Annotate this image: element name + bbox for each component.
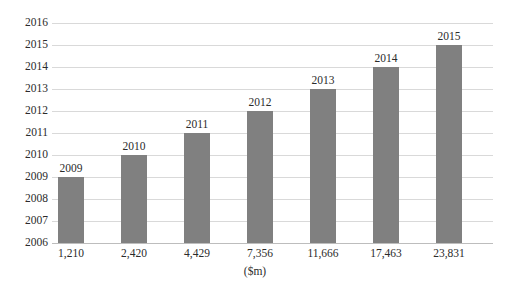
y-axis-tick-2008: 2008 xyxy=(4,193,48,205)
y-axis-tick-2015: 2015 xyxy=(4,39,48,51)
plot-area: 2009 2010 2011 2012 2013 2014 2015 xyxy=(52,23,493,243)
y-axis-tick-2014: 2014 xyxy=(4,61,48,73)
y-axis-tick-2016: 2016 xyxy=(4,17,48,29)
x-axis-title: ($m) xyxy=(0,265,510,277)
bar-2010[interactable] xyxy=(121,155,147,243)
y-axis-tick-2011: 2011 xyxy=(4,127,48,139)
bar-value-label-2010: 2010 xyxy=(104,141,164,153)
bar-value-label-2011: 2011 xyxy=(167,119,227,131)
bar-chart: 2016 2015 2014 2013 2012 2011 2010 2009 … xyxy=(0,0,510,293)
bar-2012[interactable] xyxy=(247,111,273,243)
gridline-2014 xyxy=(52,67,493,68)
x-axis-tick-2: 2,420 xyxy=(99,247,169,259)
bar-2014[interactable] xyxy=(373,67,399,243)
x-axis-tick-1: 1,210 xyxy=(36,247,106,259)
y-axis-tick-2007: 2007 xyxy=(4,215,48,227)
bar-2009[interactable] xyxy=(58,177,84,243)
y-axis-tick-2010: 2010 xyxy=(4,149,48,161)
bar-2011[interactable] xyxy=(184,133,210,243)
gridline-2006-baseline xyxy=(52,243,493,244)
bar-2015[interactable] xyxy=(436,45,462,243)
x-axis-tick-6: 17,463 xyxy=(351,247,421,259)
gridline-2013 xyxy=(52,89,493,90)
gridline-2016 xyxy=(52,23,493,24)
y-axis-tick-2012: 2012 xyxy=(4,105,48,117)
x-axis-tick-5: 11,666 xyxy=(288,247,358,259)
bar-2013[interactable] xyxy=(310,89,336,243)
x-axis-tick-3: 4,429 xyxy=(162,247,232,259)
x-axis-tick-4: 7,356 xyxy=(225,247,295,259)
gridline-2015 xyxy=(52,45,493,46)
bar-value-label-2014: 2014 xyxy=(356,53,416,65)
bar-value-label-2013: 2013 xyxy=(293,75,353,87)
bar-value-label-2015: 2015 xyxy=(419,31,479,43)
bar-value-label-2009: 2009 xyxy=(41,163,101,175)
x-axis-tick-7: 23,831 xyxy=(414,247,484,259)
bar-value-label-2012: 2012 xyxy=(230,97,290,109)
y-axis-tick-2013: 2013 xyxy=(4,83,48,95)
y-axis-tick-labels: 2016 2015 2014 2013 2012 2011 2010 2009 … xyxy=(0,23,48,243)
